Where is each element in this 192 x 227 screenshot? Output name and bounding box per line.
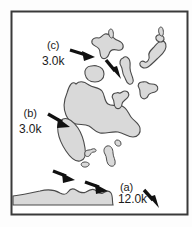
flow-label-a-value: 12.0k	[118, 193, 147, 205]
island-lower-right-small	[115, 140, 121, 146]
flow-label-c-value: 3.0k	[42, 54, 64, 68]
island-lower-small-oval	[81, 162, 89, 167]
flow-label-a: (a) 12.0k	[118, 182, 147, 205]
flow-label-b-value: 3.0k	[19, 122, 41, 136]
flow-label-b: (b) 3.0k	[19, 104, 41, 137]
flow-label-b-id: (b)	[24, 107, 37, 119]
map-figure: (c) 3.0k (b) 3.0k (a) 12.0k	[0, 0, 192, 227]
flow-label-c-id: (c)	[47, 39, 60, 51]
flow-label-c: (c) 3.0k	[42, 36, 64, 69]
island-upper-center-round	[85, 66, 104, 82]
island-sliver-top-right	[159, 27, 164, 36]
island-sliver-top-left	[109, 29, 114, 38]
